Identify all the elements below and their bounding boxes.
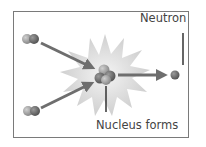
- reactant-top-nucleus-icon: [22, 34, 39, 44]
- nucleus-forms-label: Nucleus forms: [96, 120, 178, 132]
- reactant-bottom-nucleus-icon: [23, 106, 40, 116]
- arrow-top-to-nucleus: [41, 43, 91, 67]
- neutron-particle-icon: [171, 71, 180, 80]
- neutron-label: Neutron: [140, 13, 186, 25]
